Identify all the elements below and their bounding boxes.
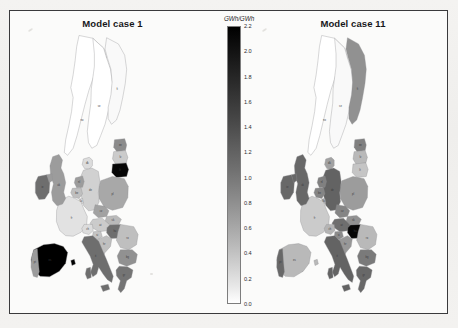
country-gr[interactable] <box>116 266 133 293</box>
country-label-at: at <box>99 223 101 227</box>
colorbar-tick-label: 2.2 <box>244 23 251 29</box>
map-panel-case-11[interactable]: Model case 11 nosefidkeelvltpldenlbelufr… <box>257 11 449 313</box>
country-label-fr: fr <box>71 216 73 220</box>
country-it[interactable] <box>85 267 91 279</box>
country-label-fr: fr <box>314 216 316 220</box>
colorbar-tick-label: 2.0 <box>244 48 251 54</box>
colorbar-tick-label: 1.4 <box>244 124 251 130</box>
colorbar-tick-label: 1.6 <box>244 99 251 105</box>
colorbar-group: GWh/GWh 2.22.01.81.61.41.21.00.80.60.40.… <box>215 11 259 313</box>
colorbar-tick-label: 1.8 <box>244 74 251 80</box>
country-label-hr: hr <box>344 242 346 246</box>
colorbar-tick-label: 0.2 <box>244 276 251 282</box>
colorbar-tick-label: 1.0 <box>244 175 251 181</box>
country-it[interactable] <box>101 284 110 291</box>
country-label-pt: pt <box>34 260 36 264</box>
country-es[interactable] <box>71 259 76 265</box>
country-gr[interactable] <box>356 266 372 293</box>
figure-frame: Model case 1 nosefidkeelvltpldenlbelufrc… <box>9 10 448 314</box>
choropleth-map-case-11[interactable]: nosefidkeelvltpldenlbelufrczskatchhusihr… <box>257 27 449 309</box>
country-it[interactable] <box>342 284 350 291</box>
country-label-no: no <box>323 119 326 122</box>
colorbar-tick-label: 0.6 <box>244 225 251 231</box>
country-label-hr: hr <box>103 242 105 246</box>
country-es[interactable] <box>314 259 318 265</box>
colorbar-tick-label: 0.8 <box>244 200 251 206</box>
country-label-pt: pt <box>279 260 281 264</box>
colorbar-tick-label: 0.0 <box>244 301 251 307</box>
country-label-at: at <box>340 223 342 227</box>
country-label-no: no <box>81 119 84 122</box>
map-panel-case-1[interactable]: Model case 1 nosefidkeelvltpldenlbelufrc… <box>10 11 215 313</box>
country-it[interactable] <box>328 267 334 279</box>
colorbar-gradient <box>227 26 241 304</box>
choropleth-map-case-1[interactable]: nosefidkeelvltpldenlbelufrczskatchhusihr… <box>10 27 215 309</box>
country-label-gr: gr <box>123 273 125 277</box>
colorbar-tick-label: 0.4 <box>244 250 251 256</box>
country-label-gr: gr <box>363 273 365 277</box>
colorbar-tick-label: 1.2 <box>244 149 251 155</box>
